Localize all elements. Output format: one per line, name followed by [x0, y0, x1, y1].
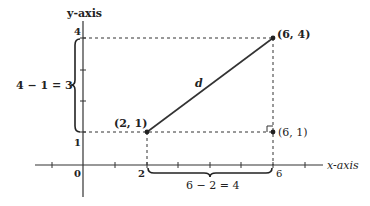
- segment-d: [147, 38, 273, 132]
- distance-diagram: y-axis x-axis 4 1 0 2 6 (2, 1) (6, 4) (6…: [0, 0, 370, 206]
- point-label-6-4: (6, 4): [277, 28, 310, 41]
- y-axis-label: y-axis: [66, 7, 102, 20]
- dashed-guides: [83, 38, 273, 165]
- point-label-2-1: (2, 1): [114, 117, 147, 130]
- segment-d-label: d: [195, 77, 203, 90]
- y-tick-label-4: 4: [74, 26, 81, 37]
- y-tick-label-1: 1: [74, 137, 81, 148]
- x-tick-label-6: 6: [276, 168, 282, 179]
- point-6-1: [271, 130, 276, 135]
- point-6-4: [271, 36, 276, 41]
- x-tick-label-2: 2: [138, 168, 145, 179]
- x-tick-label-0: 0: [74, 168, 81, 179]
- vertical-brace-label: 4 − 1 = 3: [16, 79, 73, 92]
- point-label-6-1: (6, 1): [278, 126, 308, 139]
- x-axis-label: x-axis: [327, 159, 359, 172]
- horizontal-brace-label: 6 − 2 = 4: [186, 179, 239, 192]
- point-2-1: [145, 130, 150, 135]
- horizontal-brace: [148, 168, 272, 177]
